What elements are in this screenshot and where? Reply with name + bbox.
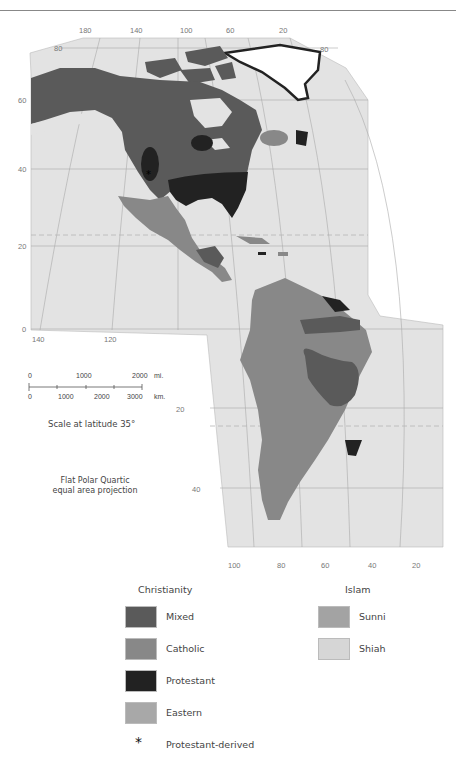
left-latitude-tick: 60: [18, 96, 26, 105]
scale-caption: Scale at latitude 35°: [48, 419, 135, 429]
projection-line-2: equal area projection: [40, 486, 150, 496]
projection-note: Flat Polar Quartic equal area projection: [40, 476, 150, 496]
scale-mi-label: 0: [28, 372, 32, 379]
top-longitude-tick: 140: [130, 26, 143, 35]
protestant-derived-star-icon: *: [135, 734, 142, 750]
top-longitude-tick: 20: [279, 26, 287, 35]
protestant-derived-marker: *: [146, 169, 151, 180]
mid-longitude-tick: 140: [32, 335, 45, 344]
legend-swatch-mixed: [125, 606, 157, 628]
top-latitude-tick: 80: [54, 44, 62, 53]
left-latitude-tick: 20: [18, 242, 26, 251]
dakota-protestant-blob: [191, 135, 213, 151]
bottom-longitude-tick: 20: [412, 561, 420, 570]
bottom-longitude-tick: 60: [321, 561, 329, 570]
south-latitude-tick: 20: [176, 405, 184, 414]
legend-swatch-shiah: [318, 638, 350, 660]
scale-km-label: 1000: [58, 393, 74, 400]
bottom-longitude-tick: 40: [368, 561, 376, 570]
mid-longitude-tick: 120: [104, 335, 117, 344]
legend-label-eastern: Eastern: [166, 707, 202, 718]
legend-heading-christianity: Christianity: [138, 584, 192, 595]
scale-ruler: [28, 383, 144, 391]
south-latitude-tick: 40: [192, 485, 200, 494]
legend-swatch-protestant: [125, 670, 157, 692]
bottom-longitude-tick: 100: [228, 561, 241, 570]
legend-swatch-eastern: [125, 702, 157, 724]
top-latitude-tick: 80: [320, 45, 328, 54]
scale-km-label: 2000: [94, 393, 110, 400]
legend-label-sunni: Sunni: [359, 611, 386, 622]
legend-heading-islam: Islam: [345, 584, 370, 595]
left-latitude-tick: 0: [22, 325, 26, 334]
scale-mi-unit: mi.: [154, 372, 163, 379]
bottom-longitude-tick: 80: [277, 561, 285, 570]
quebec-catholic: [260, 130, 288, 146]
legend-label-shiah: Shiah: [359, 643, 386, 654]
top-longitude-tick: 60: [226, 26, 234, 35]
scale-km-unit: km.: [154, 393, 165, 400]
scale-mi-label: 2000: [132, 372, 148, 379]
legend-label-mixed: Mixed: [166, 611, 194, 622]
legend-label-protestant-derived: Protestant-derived: [166, 739, 254, 750]
projection-line-1: Flat Polar Quartic: [40, 476, 150, 486]
scale-mi-label: 1000: [76, 372, 92, 379]
legend-swatch-catholic: [125, 638, 157, 660]
scale-km-label: 3000: [127, 393, 143, 400]
legend-label-protestant: Protestant: [166, 675, 215, 686]
left-latitude-tick: 40: [18, 165, 26, 174]
legend-swatch-sunni: [318, 606, 350, 628]
legend-label-catholic: Catholic: [166, 643, 205, 654]
top-longitude-tick: 180: [79, 26, 92, 35]
top-longitude-tick: 100: [180, 26, 193, 35]
scale-km-label: 0: [28, 393, 32, 400]
